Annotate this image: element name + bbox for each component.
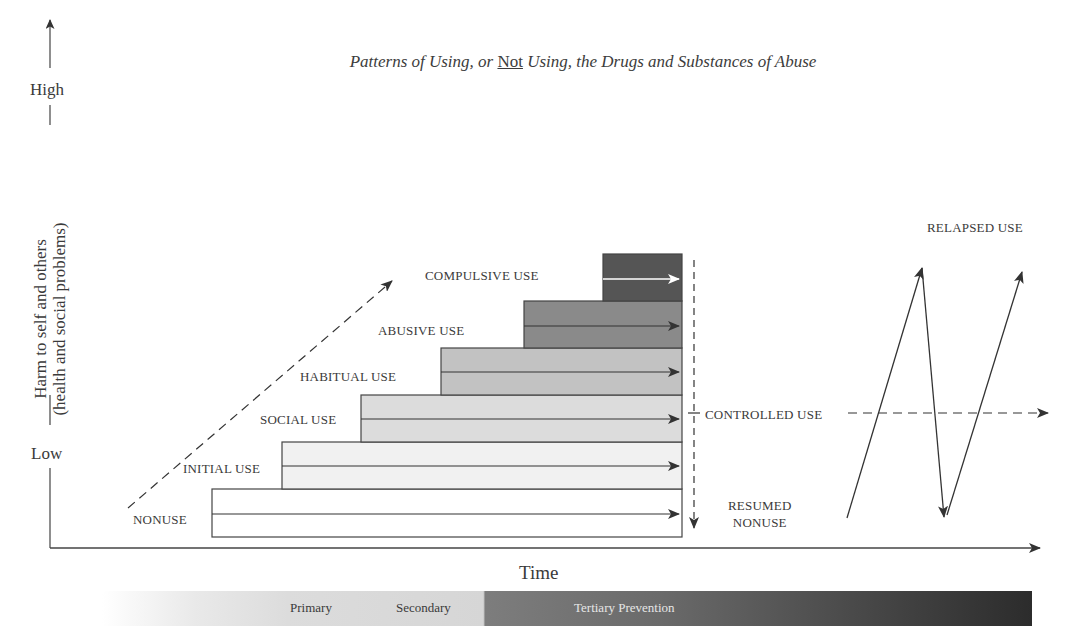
stage-label-habitual-use: HABITUAL USE	[300, 369, 396, 385]
stage-label-initial-use: INITIAL USE	[183, 461, 260, 477]
prevention-primary: Primary	[290, 600, 332, 616]
staircase	[212, 254, 682, 537]
outcome-resumed-nonuse: RESUMED NONUSE	[728, 497, 792, 531]
stage-label-nonuse: NONUSE	[133, 512, 187, 528]
prevention-tertiary: Tertiary Prevention	[574, 600, 675, 616]
stage-label-abusive-use: ABUSIVE USE	[378, 323, 464, 339]
relapse-zigzag	[847, 268, 1022, 518]
prevention-band: Primary Secondary Tertiary Prevention	[102, 591, 1032, 626]
stage-label-social-use: SOCIAL USE	[260, 412, 336, 428]
stage-label-compulsive-use: COMPULSIVE USE	[425, 268, 539, 284]
prevention-secondary: Secondary	[396, 600, 451, 616]
diagram-graphics	[0, 0, 1066, 644]
outcome-controlled-use: CONTROLLED USE	[705, 407, 825, 423]
y-axis-title: Harm to self and others (health and soci…	[31, 189, 69, 449]
x-axis-label: Time	[519, 562, 558, 584]
outcome-relapsed-use: RELAPSED USE	[927, 220, 1023, 236]
y-axis-high-label: High	[30, 80, 64, 100]
